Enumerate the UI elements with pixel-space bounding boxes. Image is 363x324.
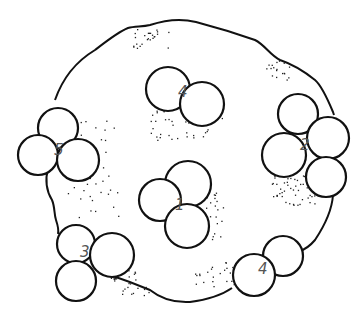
- circle: [306, 157, 346, 197]
- circle: [233, 254, 275, 296]
- circle: [90, 233, 134, 277]
- circle-clusters: 452134: [18, 67, 349, 301]
- cluster-label: 1: [175, 196, 185, 214]
- diagram-canvas: 452134: [0, 0, 363, 324]
- circle: [307, 117, 349, 159]
- circle: [18, 135, 58, 175]
- cluster-label: 4: [258, 260, 268, 278]
- cluster-center-1: 1: [139, 161, 211, 248]
- cluster-bottom-right-4: 4: [233, 236, 303, 296]
- cluster-label: 5: [54, 141, 64, 159]
- cluster-label: 2: [300, 136, 310, 154]
- circle: [56, 261, 96, 301]
- circle: [165, 204, 209, 248]
- cluster-label: 4: [178, 83, 188, 101]
- cluster-label: 3: [80, 243, 90, 261]
- cluster-left-5: 5: [18, 108, 99, 181]
- cluster-bottom-left-3: 3: [56, 225, 134, 301]
